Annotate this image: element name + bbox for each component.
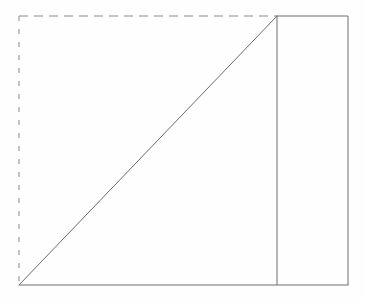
hypotenuse-diagonal: [19, 16, 277, 285]
figure-canvas: Right triangle inscribed in a dashed rec…: [0, 0, 365, 302]
geometric-diagram: Right triangle inscribed in a dashed rec…: [0, 0, 365, 302]
solid-outline-group: [19, 16, 349, 285]
triangle-group: [19, 16, 277, 285]
